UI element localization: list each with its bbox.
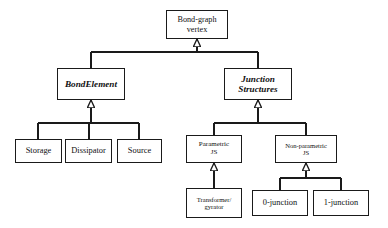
- node-junction-structures[interactable]: Junction Structures: [224, 68, 292, 100]
- node-storage[interactable]: Storage: [15, 139, 62, 163]
- node-label: BondElement: [58, 79, 124, 89]
- node-bond-element[interactable]: BondElement: [57, 68, 125, 100]
- node-label: Non-parametric JS: [276, 142, 336, 157]
- node-zero-junction[interactable]: 0-junction: [252, 190, 308, 216]
- edge-root-children: [91, 39, 258, 68]
- node-label: Junction Structures: [225, 74, 291, 95]
- node-label: 0-junction: [253, 198, 307, 207]
- node-bond-graph-vertex[interactable]: Bond-graph vertex: [166, 10, 228, 39]
- edge-nonparametric-junctions: [280, 163, 341, 190]
- class-hierarchy-diagram: Bond-graph vertex BondElement Junction S…: [0, 0, 388, 228]
- node-label: Transformer/ gyrator: [187, 196, 241, 211]
- node-label: Parametric JS: [187, 141, 241, 157]
- node-transformer-gyrator[interactable]: Transformer/ gyrator: [186, 188, 242, 218]
- node-label: Source: [118, 146, 161, 155]
- node-label: Storage: [16, 146, 61, 155]
- node-label: Dissipator: [66, 146, 111, 155]
- node-source[interactable]: Source: [117, 139, 162, 163]
- node-label: Bond-graph vertex: [167, 15, 227, 33]
- node-parametric-js[interactable]: Parametric JS: [186, 135, 242, 163]
- node-one-junction[interactable]: 1-junction: [313, 190, 369, 216]
- node-label: 1-junction: [314, 198, 368, 207]
- node-dissipator[interactable]: Dissipator: [65, 139, 112, 163]
- edge-bondelement-children: [38, 100, 139, 139]
- edge-junction-children: [214, 100, 306, 135]
- node-non-parametric-js[interactable]: Non-parametric JS: [275, 135, 337, 163]
